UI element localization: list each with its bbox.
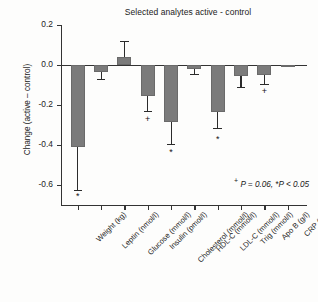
x-tick (241, 205, 242, 210)
bar (281, 65, 295, 67)
bar (94, 65, 108, 72)
error-bar (147, 96, 148, 111)
significance-marker: + (142, 115, 154, 124)
x-tick (101, 205, 102, 210)
bar (71, 65, 85, 147)
x-axis-line (61, 205, 307, 206)
chart-title: Selected analytes active - control (78, 7, 298, 17)
error-bar-cap (190, 74, 198, 75)
error-bar-cap (237, 87, 245, 88)
x-tick (218, 205, 219, 210)
bar (117, 57, 131, 65)
significance-marker: * (212, 135, 224, 144)
error-bar (264, 75, 265, 84)
y-tick-label: 0.0 (27, 59, 53, 69)
significance-marker: + (258, 87, 270, 96)
footnote-trend-text: P = 0.06, (238, 180, 275, 189)
x-tick (124, 205, 125, 210)
bar (234, 65, 248, 76)
error-bar-cap (167, 144, 175, 145)
y-tick: 0.2 (57, 25, 62, 26)
x-tick (194, 205, 195, 210)
y-tick-label: 0.2 (27, 19, 53, 29)
chart-figure: Selected analytes active - control Chang… (0, 0, 318, 302)
error-bar (171, 122, 172, 144)
error-bar (240, 76, 241, 87)
error-bar (217, 112, 218, 128)
significance-footnote: + P = 0.06, *P < 0.05 (234, 177, 309, 189)
y-tick-label: -0.4 (27, 139, 53, 149)
bar (257, 65, 271, 75)
error-bar-cap (120, 41, 128, 42)
y-axis-line (61, 25, 62, 206)
footnote-sig-text: P < 0.05 (279, 180, 309, 189)
error-bar (101, 72, 102, 79)
significance-marker: * (72, 192, 84, 201)
y-tick: -0.6 (57, 185, 62, 186)
x-tick (171, 205, 172, 210)
y-axis-label: Change (active – control) (23, 35, 32, 185)
error-bar-cap (213, 128, 221, 129)
y-tick: 0.0 (57, 65, 62, 66)
x-tick (78, 205, 79, 210)
y-tick: -0.2 (57, 105, 62, 106)
x-tick (148, 205, 149, 210)
error-bar-cap (97, 79, 105, 80)
x-axis-label: Weight (kg) (94, 210, 128, 244)
x-tick (264, 205, 265, 210)
y-tick: -0.4 (57, 145, 62, 146)
y-tick-label: -0.6 (27, 179, 53, 189)
y-tick-label: -0.2 (27, 99, 53, 109)
error-bar-cap (144, 111, 152, 112)
error-bar-cap (260, 84, 268, 85)
bar (164, 65, 178, 122)
bar (211, 65, 225, 112)
error-bar (77, 147, 78, 190)
significance-marker: * (165, 148, 177, 157)
error-bar (124, 41, 125, 57)
bar (141, 65, 155, 96)
